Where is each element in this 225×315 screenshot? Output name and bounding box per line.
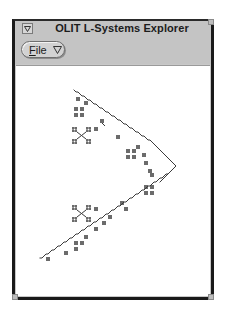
triangle-down-icon <box>53 46 62 54</box>
app-window: OLIT L-Systems Explorer File <box>12 19 214 300</box>
resize-handle-bottom-right[interactable] <box>208 294 214 300</box>
l-system-fractal <box>16 66 212 299</box>
title-bar[interactable]: OLIT L-Systems Explorer <box>15 21 211 36</box>
resize-handle-bottom-left[interactable] <box>12 294 18 300</box>
file-menu-label: File <box>29 44 47 56</box>
resize-handle-top-right[interactable] <box>208 19 214 25</box>
triangle-down-icon <box>24 26 31 32</box>
file-menu-button[interactable]: File <box>21 41 65 58</box>
menu-bar: File <box>15 36 211 64</box>
drawing-canvas[interactable] <box>16 65 210 296</box>
window-title: OLIT L-Systems Explorer <box>33 22 211 34</box>
window-menu-button[interactable] <box>22 23 33 34</box>
